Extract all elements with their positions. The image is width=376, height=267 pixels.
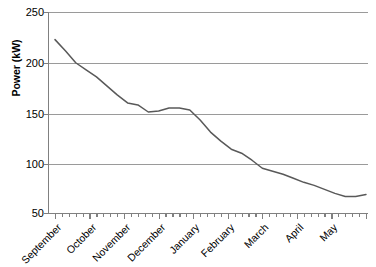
plot-area [0,0,376,267]
x-axis-ticks [56,214,367,219]
power-line-chart: Power (kW) 250 200 150 100 50 [0,0,376,267]
gridlines [48,13,368,165]
y-axis-ticks [44,13,48,214]
